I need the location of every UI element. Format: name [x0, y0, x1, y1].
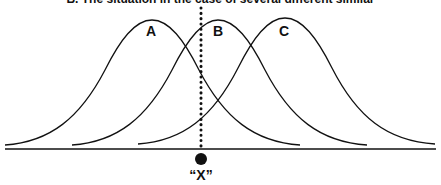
marker-label-x: “X” [186, 167, 216, 183]
marker-dot [195, 153, 207, 165]
distribution-diagram: A B C [0, 0, 441, 185]
curve-label-a: A [146, 23, 156, 39]
curve-label-b: B [213, 23, 223, 39]
curve-label-c: C [279, 23, 289, 39]
